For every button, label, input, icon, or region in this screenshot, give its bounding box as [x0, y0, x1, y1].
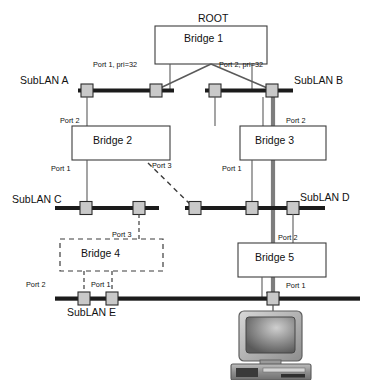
sublanC-bus: [55, 202, 159, 240]
bridge2-port2-label: Port 2: [60, 117, 79, 124]
bridge1-port1-label: Port 1, pri=32: [93, 61, 137, 68]
bridge3-port2-label: Port 2: [286, 117, 305, 124]
sublanA-label: SubLAN A: [20, 75, 68, 86]
bridge3-port1-label: Port 1: [222, 165, 241, 172]
bridge1-port2-label: Port 2, pri=32: [219, 61, 263, 68]
sublanA-bus: [78, 84, 174, 126]
sublanC-label: SubLAN C: [12, 194, 62, 205]
bridge2-port1-label: Port 1: [51, 165, 70, 172]
network-diagram-canvas: ROOT Bridge 1 Bridge 2 Bridge 3 Bridge 4…: [0, 0, 373, 380]
bridge4-label: Bridge 4: [81, 248, 120, 259]
root-label: ROOT: [198, 13, 228, 24]
bridge2-port3-label: Port 3: [152, 162, 171, 169]
sublanB-bus: [205, 84, 293, 126]
bridge4-port1-label: Port 1: [91, 281, 110, 288]
bridge5-port1-label: Port 1: [286, 282, 305, 289]
bridge4-port3-label: Port 3: [112, 231, 131, 238]
diagram-svg: [0, 0, 373, 380]
sublanD-bus: [185, 202, 325, 244]
sublanE-label: SubLAN E: [67, 307, 116, 318]
bridge5-label: Bridge 5: [255, 252, 294, 263]
sublanD-label: SubLAN D: [300, 192, 350, 203]
bridge3-label: Bridge 3: [255, 135, 294, 146]
bridge1-label: Bridge 1: [184, 33, 223, 44]
bridge5-port2-label: Port 2: [278, 234, 297, 241]
bridge4-port2-label: Port 2: [26, 281, 45, 288]
bridge2-label: Bridge 2: [93, 135, 132, 146]
workstation-computer-icon: [231, 311, 311, 380]
bridge1-port1-link: [156, 64, 211, 90]
sublanB-label: SubLAN B: [294, 75, 343, 86]
